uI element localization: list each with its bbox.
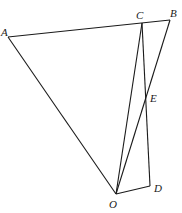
label-o: O	[109, 198, 117, 210]
segment-od	[116, 186, 150, 194]
label-a: A	[0, 26, 8, 38]
label-b: B	[170, 7, 177, 19]
label-e: E	[149, 92, 157, 104]
geometry-diagram: A B C E D O	[0, 0, 182, 213]
segment-ab	[8, 20, 170, 37]
label-d: D	[153, 182, 162, 194]
segment-ao	[8, 37, 116, 194]
segment-co	[116, 23, 142, 194]
label-c: C	[136, 9, 144, 21]
